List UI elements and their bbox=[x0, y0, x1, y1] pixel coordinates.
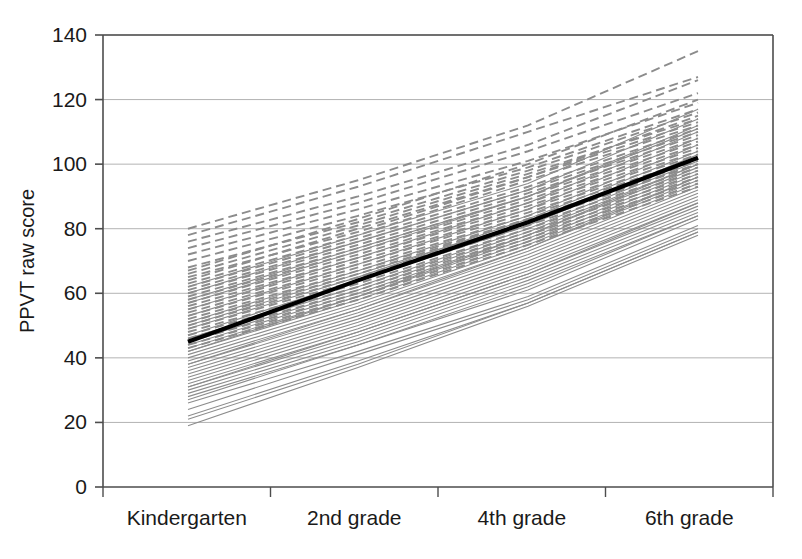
chart-page: 020406080100120140 Kindergarten2nd grade… bbox=[0, 0, 802, 559]
x-category-label-2: 4th grade bbox=[477, 506, 566, 529]
y-tick-label-100: 100 bbox=[52, 152, 87, 175]
ppvt-growth-chart: 020406080100120140 Kindergarten2nd grade… bbox=[0, 0, 802, 559]
x-category-label-0: Kindergarten bbox=[127, 506, 247, 529]
y-tick-label-140: 140 bbox=[52, 23, 87, 46]
y-tick-label-20: 20 bbox=[64, 410, 87, 433]
y-tick-label-40: 40 bbox=[64, 346, 87, 369]
y-axis-title-text: PPVT raw score bbox=[16, 189, 38, 333]
y-tick-label-0: 0 bbox=[75, 475, 87, 498]
x-category-label-1: 2nd grade bbox=[307, 506, 402, 529]
x-category-label-3: 6th grade bbox=[645, 506, 734, 529]
y-axis-title: PPVT raw score bbox=[16, 189, 38, 333]
y-tick-label-80: 80 bbox=[64, 217, 87, 240]
y-tick-label-60: 60 bbox=[64, 281, 87, 304]
y-tick-label-120: 120 bbox=[52, 88, 87, 111]
chart-background bbox=[0, 0, 802, 559]
